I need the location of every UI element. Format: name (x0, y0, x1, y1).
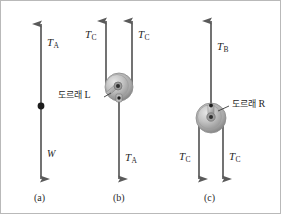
physics-figure: TA W (a) TC TC TA 도르래 L (b) TB TC TC 도르래… (0, 0, 281, 214)
label-b-TC-right: TC (138, 29, 149, 40)
label-c-TC-right: TC (229, 151, 240, 162)
label-b-TA: TA (125, 152, 137, 163)
label-a-W: W (47, 149, 55, 159)
label-pulley-R: 도르래 R (232, 99, 265, 109)
pulley-L-graphic (105, 73, 133, 102)
caption-panel-a: (a) (34, 193, 45, 203)
label-c-TC-left: TC (179, 151, 190, 162)
label-pulley-L: 도르래 L (58, 90, 91, 100)
label-b-TC-left: TC (85, 29, 96, 40)
caption-panel-b: (b) (113, 193, 125, 203)
particle-dot (38, 103, 45, 110)
label-c-TB: TB (217, 41, 228, 52)
caption-panel-c: (c) (204, 193, 215, 203)
pulley-R-axle-dot (209, 115, 213, 119)
panel-a-vectors (38, 24, 45, 179)
pulley-R-graphic (196, 103, 226, 133)
pulley-L-attach-dot (117, 96, 120, 99)
label-a-TA: TA (47, 37, 59, 48)
pulley-R-attach-dot (209, 104, 213, 108)
pulley-L-axle-dot (116, 84, 120, 88)
